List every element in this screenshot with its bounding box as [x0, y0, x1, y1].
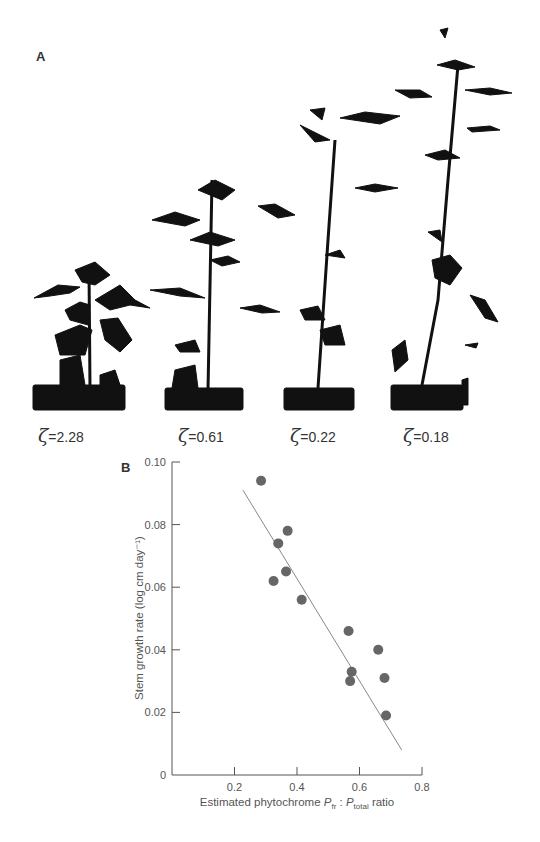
y-tick-label: 0.02: [145, 706, 166, 718]
data-point: [345, 676, 355, 686]
x-tick-label: 0.2: [227, 781, 242, 793]
y-axis-title: Stem growth rate (log cm day⁻¹): [133, 536, 145, 700]
y-tick-label: 0: [160, 769, 166, 781]
x-tick-label: 0.6: [352, 781, 367, 793]
data-point: [283, 526, 293, 536]
data-point: [380, 673, 390, 683]
data-points: [256, 476, 391, 721]
data-point: [281, 567, 291, 577]
data-point: [269, 576, 279, 586]
x-axis-title: Estimated phytochrome Pfr : Ptotal ratio: [200, 796, 395, 811]
data-point: [373, 645, 383, 655]
chart-ticks: 00.020.040.060.080.100.20.40.60.8: [145, 456, 430, 793]
data-point: [344, 626, 354, 636]
y-tick-label: 0.08: [145, 519, 166, 531]
scatter-chart: 00.020.040.060.080.100.20.40.60.8 Stem g…: [0, 0, 540, 842]
data-point: [347, 667, 357, 677]
regression-line: [243, 490, 402, 750]
y-tick-label: 0.04: [145, 644, 166, 656]
data-point: [297, 595, 307, 605]
chart-axes: [172, 462, 422, 775]
data-point: [273, 538, 283, 548]
y-tick-label: 0.06: [145, 581, 166, 593]
y-tick-label: 0.10: [145, 456, 166, 468]
data-point: [256, 476, 266, 486]
data-point: [381, 711, 391, 721]
x-tick-label: 0.4: [289, 781, 304, 793]
x-tick-label: 0.8: [414, 781, 429, 793]
